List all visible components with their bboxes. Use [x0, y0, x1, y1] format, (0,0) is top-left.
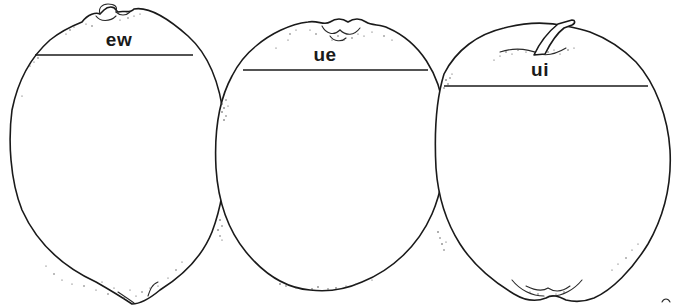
- apple-label: ui: [520, 60, 560, 79]
- lemon-label: ew: [94, 30, 144, 49]
- fruit-illustration: ew ue ui: [0, 0, 673, 307]
- orange-label: ue: [300, 45, 350, 64]
